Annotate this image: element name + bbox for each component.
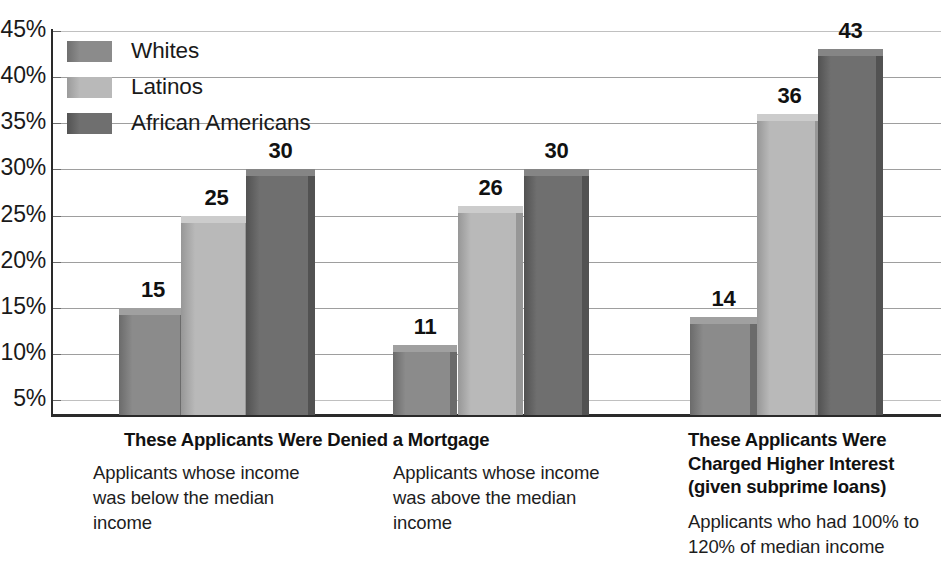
bar-whites-group-1 xyxy=(119,308,187,415)
bar-face xyxy=(524,176,582,415)
y-axis-tick xyxy=(52,216,61,217)
bar-african-americans-group-1 xyxy=(246,169,315,415)
y-axis-tick-label: 35% xyxy=(0,108,46,135)
legend-swatch xyxy=(67,77,112,98)
caption-heading-denied-mortgage: These Applicants Were Denied a Mortgage xyxy=(124,428,684,452)
bar-top-face xyxy=(393,345,457,352)
y-axis-tick-label: 15% xyxy=(0,293,46,320)
bar-value-label: 25 xyxy=(181,185,252,211)
bar-side-shadow xyxy=(876,56,883,415)
bar-side-shadow xyxy=(750,324,757,415)
y-axis-tick xyxy=(52,400,61,401)
top-edge-trim xyxy=(0,0,950,9)
y-axis-tick-label: 20% xyxy=(0,247,46,274)
y-axis-tick-label: 25% xyxy=(0,201,46,228)
bar-top-face xyxy=(524,169,589,176)
bar-value-label: 30 xyxy=(524,138,589,164)
gridline xyxy=(679,77,941,78)
bar-value-label: 14 xyxy=(690,286,757,312)
legend-label: African Americans xyxy=(131,112,311,135)
chart-legend: WhitesLatinosAfrican Americans xyxy=(67,33,311,141)
legend-item-whites: Whites xyxy=(67,33,311,69)
bar-top-face xyxy=(757,114,822,121)
legend-label: Whites xyxy=(131,40,199,63)
y-axis-tick xyxy=(52,354,61,355)
bar-side-shadow xyxy=(450,352,457,415)
y-axis-line xyxy=(51,29,53,416)
bar-latinos-group-1 xyxy=(181,216,252,415)
y-axis-tick xyxy=(52,308,61,309)
y-axis-tick xyxy=(52,31,61,32)
bar-value-label: 15 xyxy=(119,277,187,303)
bar-face xyxy=(393,352,450,415)
bar-face xyxy=(119,315,180,415)
caption-body-group-1: Applicants whose income was below the me… xyxy=(93,461,308,535)
bar-chart: 45%40%35%30%25%20%15%10%5% 1525301126301… xyxy=(0,0,950,587)
gridline xyxy=(52,31,679,32)
bar-face xyxy=(757,121,815,415)
bar-value-label: 36 xyxy=(757,83,822,109)
y-axis-tick-label: 40% xyxy=(0,62,46,89)
legend-swatch xyxy=(67,41,112,62)
bar-face xyxy=(690,324,750,415)
bar-side-shadow xyxy=(582,176,589,415)
y-axis-tick xyxy=(52,123,61,124)
gridline xyxy=(679,31,941,32)
legend-item-african-americans: African Americans xyxy=(67,105,311,141)
bar-face xyxy=(458,213,516,415)
caption-heading-higher-interest: These Applicants Were Charged Higher Int… xyxy=(688,428,938,499)
bar-value-label: 11 xyxy=(393,314,457,340)
y-axis-tick xyxy=(52,77,61,78)
bar-whites-group-2 xyxy=(393,345,457,415)
bar-face xyxy=(181,223,245,415)
y-axis-tick-label: 10% xyxy=(0,339,46,366)
bar-face xyxy=(246,176,308,415)
bar-value-label: 26 xyxy=(458,175,523,201)
y-axis-tick-label: 45% xyxy=(0,16,46,43)
y-axis-tick xyxy=(52,169,61,170)
y-axis-tick xyxy=(52,262,61,263)
bar-face xyxy=(818,56,876,415)
caption-body-group-3: Applicants who had 100% to 120% of media… xyxy=(688,510,928,560)
bar-top-face xyxy=(690,317,757,324)
bar-top-face xyxy=(246,169,315,176)
y-axis-tick-label: 5% xyxy=(0,385,46,412)
legend-label: Latinos xyxy=(131,76,203,99)
caption-body-group-2: Applicants whose income was above the me… xyxy=(393,461,608,535)
legend-swatch xyxy=(67,113,112,134)
legend-item-latinos: Latinos xyxy=(67,69,311,105)
bar-top-face xyxy=(181,216,252,223)
y-axis-tick-label: 30% xyxy=(0,154,46,181)
bar-side-shadow xyxy=(516,213,523,415)
bar-value-label: 43 xyxy=(818,18,883,44)
bar-top-face xyxy=(119,308,187,315)
bar-side-shadow xyxy=(308,176,315,415)
bar-latinos-group-2 xyxy=(458,206,523,415)
bar-top-face xyxy=(458,206,523,213)
bar-value-label: 30 xyxy=(246,138,315,164)
bar-african-americans-group-2 xyxy=(524,169,589,415)
bar-latinos-group-3 xyxy=(757,114,822,415)
bar-top-face xyxy=(818,49,883,56)
bar-whites-group-3 xyxy=(690,317,757,415)
bar-african-americans-group-3 xyxy=(818,49,883,415)
